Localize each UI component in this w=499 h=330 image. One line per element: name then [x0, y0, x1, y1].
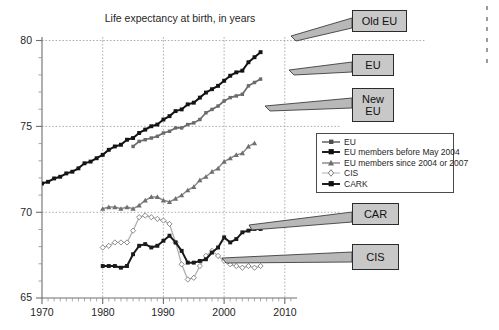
data-point [192, 101, 196, 105]
legend-key-new-eu-icon [321, 158, 341, 168]
data-point [180, 249, 184, 253]
data-point [131, 252, 135, 256]
cropped-text-line [486, 6, 499, 10]
data-point [192, 121, 195, 124]
data-point [83, 161, 87, 165]
legend-key-cis-icon [321, 168, 341, 178]
callout-new-eu-line1: New [362, 93, 384, 105]
legend-item-cark: CARK [321, 179, 449, 189]
chart-legend: EU EU members before May 2004 EU members… [316, 133, 454, 193]
callout-cis[interactable]: CIS [352, 244, 399, 270]
data-point [155, 123, 159, 127]
legend-label-new-eu: EU members since 2004 or 2007 [344, 158, 468, 168]
data-point [162, 131, 165, 134]
cropped-text-line [486, 27, 499, 31]
legend-key-old-eu-icon [321, 147, 341, 157]
data-point [234, 70, 238, 74]
legend-label-eu: EU [344, 137, 356, 147]
data-point [149, 246, 153, 250]
legend-key-cark-icon [321, 179, 341, 189]
data-point [137, 131, 141, 135]
data-point [246, 229, 250, 233]
data-point [52, 176, 56, 180]
y-tick-65: 65 [6, 291, 32, 303]
data-point [253, 55, 257, 59]
data-point [210, 87, 214, 91]
data-point [168, 114, 172, 118]
data-point [89, 160, 93, 164]
y-tick-80: 80 [6, 34, 32, 46]
data-point [125, 264, 129, 268]
data-point [222, 79, 226, 83]
callout-car[interactable]: CAR [352, 203, 399, 225]
data-point [259, 77, 262, 80]
data-point [186, 261, 190, 265]
cropped-text-line [486, 17, 499, 21]
data-point [119, 266, 123, 270]
data-point [131, 145, 134, 148]
data-point [143, 242, 147, 246]
callout-eu[interactable]: EU [352, 54, 394, 76]
data-point [161, 239, 165, 243]
data-point [46, 180, 50, 184]
data-point [143, 138, 146, 141]
x-tick-2000: 2000 [204, 306, 244, 318]
x-tick-2010: 2010 [265, 306, 305, 318]
cropped-text-line [486, 59, 499, 63]
data-point [70, 170, 74, 174]
data-point [137, 140, 140, 143]
data-point [156, 135, 159, 138]
data-point [247, 84, 250, 87]
data-point [174, 240, 178, 244]
data-point [180, 126, 183, 129]
y-tick-70: 70 [6, 206, 32, 218]
x-tick-1990: 1990 [143, 306, 183, 318]
legend-label-old-eu: EU members before May 2004 [344, 147, 460, 157]
data-point [149, 124, 153, 128]
data-point [107, 264, 111, 268]
data-point [198, 118, 201, 121]
data-point [101, 264, 105, 268]
data-point [168, 130, 171, 133]
data-point [234, 237, 238, 241]
data-point [216, 246, 220, 250]
data-point [137, 244, 141, 248]
x-tick-1980: 1980 [83, 306, 123, 318]
data-point [210, 108, 213, 111]
data-point [204, 257, 208, 261]
data-point [95, 156, 99, 160]
data-point [241, 93, 244, 96]
y-tick-75: 75 [6, 120, 32, 132]
data-point [113, 264, 117, 268]
data-point [186, 123, 189, 126]
cropped-side-text [486, 6, 499, 69]
data-point [143, 128, 147, 132]
callout-new-eu[interactable]: New EU [352, 88, 394, 122]
data-point [240, 69, 244, 73]
data-point [101, 153, 105, 157]
legend-item-old-eu: EU members before May 2004 [321, 147, 449, 157]
data-point [131, 136, 135, 140]
data-point [228, 96, 231, 99]
legend-item-new-eu: EU members since 2004 or 2007 [321, 158, 449, 168]
data-point [113, 145, 117, 149]
legend-item-eu: EU [321, 137, 449, 147]
cropped-text-line [486, 38, 499, 42]
legend-label-cis: CIS [344, 168, 358, 178]
data-point [222, 235, 226, 239]
callout-new-eu-line2: EU [365, 105, 380, 117]
data-point [216, 84, 220, 88]
cropped-text-line [486, 48, 499, 52]
data-point [150, 136, 153, 139]
y-major-ticks [36, 41, 42, 299]
data-point [246, 60, 250, 64]
data-point [198, 96, 202, 100]
data-point [174, 126, 177, 129]
data-point [198, 259, 202, 263]
data-point [235, 94, 238, 97]
data-point [240, 230, 244, 234]
callout-old-eu[interactable]: Old EU [352, 10, 407, 32]
data-point [228, 74, 232, 78]
data-point [222, 99, 225, 102]
x-tick-1970: 1970 [22, 306, 62, 318]
